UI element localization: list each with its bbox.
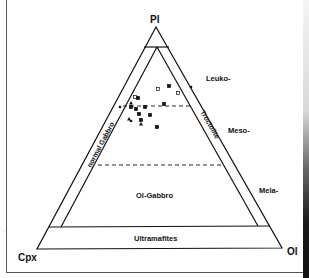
ultramafites-boundary xyxy=(49,226,270,227)
data-point xyxy=(140,119,143,122)
data-point xyxy=(135,108,138,111)
vertex-label-cpx: Cpx xyxy=(18,252,37,263)
vertex-label-pl: Pl xyxy=(150,14,160,25)
data-point xyxy=(163,103,166,106)
ternary-diagram: Pl Cpx Ol Leuko- Meso- Mela- normal Gabb… xyxy=(0,0,309,278)
data-point xyxy=(139,122,143,126)
data-point xyxy=(130,106,133,109)
label-ol-gabbro: Ol-Gabbro xyxy=(136,191,174,200)
label-ultramafites: Ultramafites xyxy=(134,234,177,243)
outer-triangle xyxy=(37,27,282,249)
data-point xyxy=(156,126,159,129)
left-margin-mark: ·, xyxy=(1,226,5,232)
label-mela: Mela- xyxy=(259,186,279,195)
label-leuko: Leuko- xyxy=(206,74,231,83)
label-meso: Meso- xyxy=(228,126,250,135)
data-point xyxy=(119,106,122,109)
label-normal-gabbro: normal Gabbro xyxy=(86,121,116,169)
data-point xyxy=(134,96,137,99)
data-point xyxy=(137,97,140,100)
data-point xyxy=(177,92,180,95)
data-point xyxy=(144,106,147,109)
data-point xyxy=(168,85,171,88)
data-point xyxy=(138,113,141,116)
data-point xyxy=(157,88,160,91)
data-point xyxy=(149,114,152,117)
data-point xyxy=(130,120,133,123)
label-troctolite: Troctolite xyxy=(199,109,221,140)
vertex-label-ol: Ol xyxy=(287,246,298,257)
data-point xyxy=(129,101,133,105)
inner-left-band-line xyxy=(61,47,157,227)
data-point xyxy=(190,86,193,89)
